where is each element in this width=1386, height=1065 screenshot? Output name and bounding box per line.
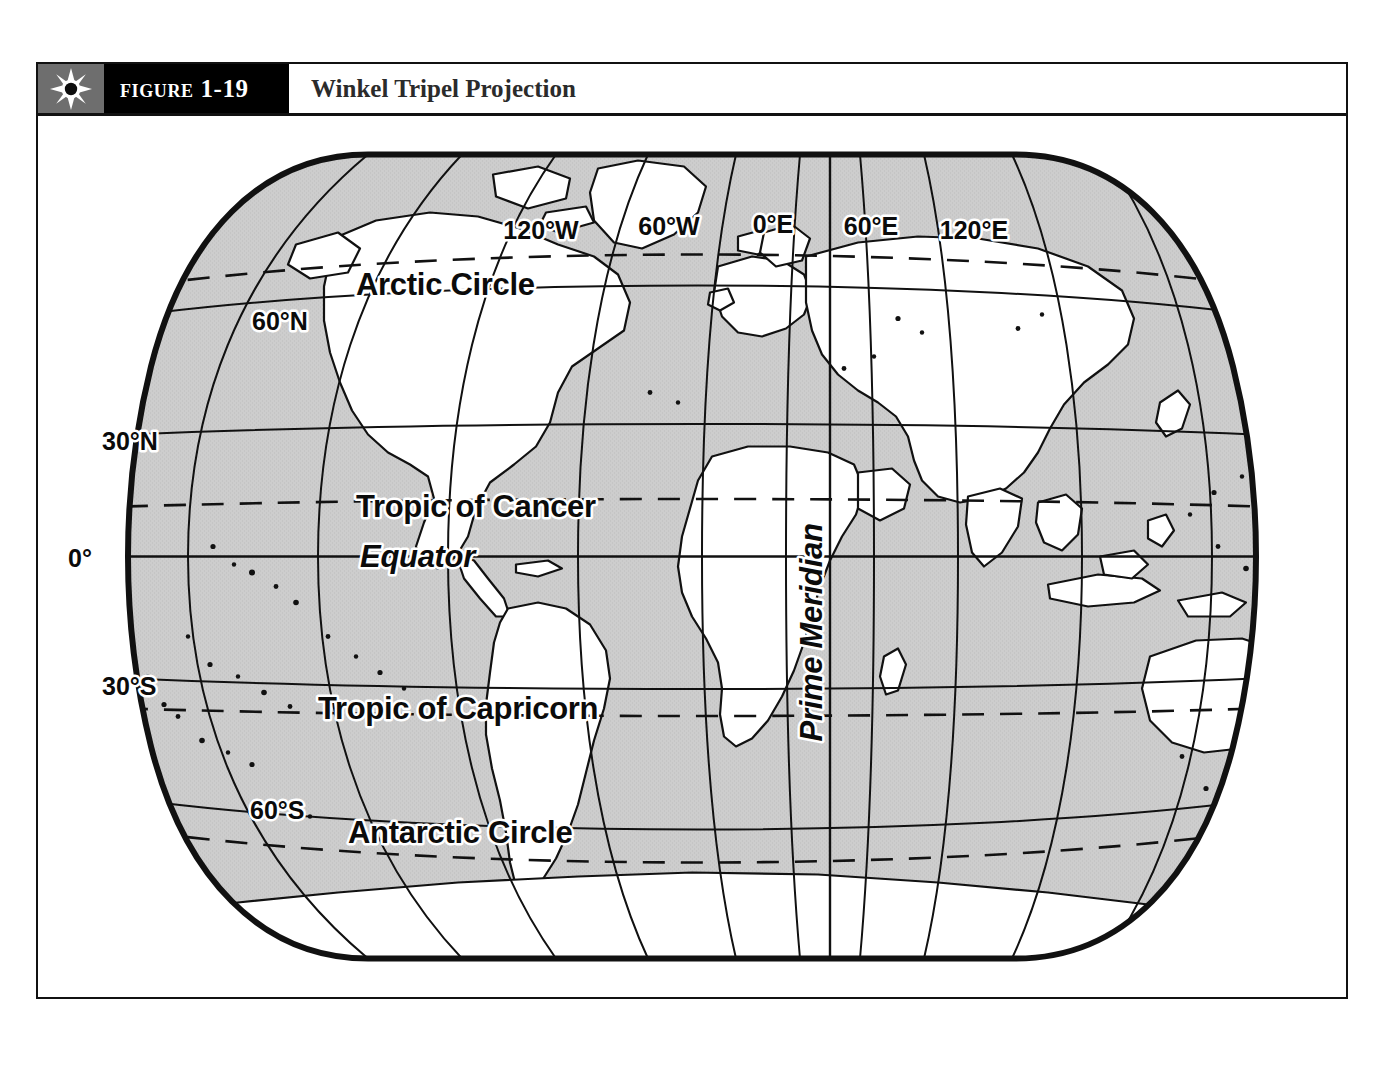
figure-icon-box [38, 64, 104, 113]
latitude-label-30S: 30°S [102, 672, 156, 700]
longitude-label-120W: 120°W [503, 216, 579, 244]
latitude-label-0: 0° [68, 544, 92, 572]
figure-title-box: Winkel Tripel Projection [289, 64, 1346, 113]
meridian-180E [1292, 155, 1346, 959]
label-tropic-of-capricorn: Tropic of Capricorn [318, 691, 598, 726]
longitude-label-120E: 120°E [940, 216, 1008, 244]
land-tasmania [1244, 759, 1270, 781]
map-area: 120°W 60°W 0°E 60°E 120°E 60°N 30°N 0° 3… [38, 116, 1346, 997]
land-new-zealand [1298, 761, 1330, 805]
figure-frame: Figure 1-19 Winkel Tripel Projection [36, 62, 1348, 999]
latitude-label-30N: 30°N [102, 427, 158, 455]
label-prime-meridian: Prime Meridian [794, 523, 829, 741]
label-antarctic-circle: Antarctic Circle [348, 815, 572, 850]
label-tropic-of-cancer: Tropic of Cancer [356, 489, 596, 524]
figure-header: Figure 1-19 Winkel Tripel Projection [38, 64, 1346, 113]
label-equator: Equator [360, 539, 477, 574]
longitude-label-0E: 0°E [753, 210, 794, 238]
latitude-label-60S: 60°S [250, 796, 304, 824]
sun-icon [49, 67, 93, 111]
label-arctic-circle: Arctic Circle [356, 267, 535, 302]
figure-number-box: Figure 1-19 [104, 64, 289, 113]
land-australia [1142, 639, 1296, 753]
winkel-tripel-map: 120°W 60°W 0°E 60°E 120°E 60°N 30°N 0° 3… [38, 116, 1346, 997]
figure-number-label: Figure 1-19 [120, 76, 249, 101]
figure-title-label: Winkel Tripel Projection [311, 76, 576, 101]
longitude-label-60W: 60°W [638, 212, 700, 240]
longitude-label-60E: 60°E [844, 212, 898, 240]
latitude-label-60N: 60°N [252, 307, 308, 335]
